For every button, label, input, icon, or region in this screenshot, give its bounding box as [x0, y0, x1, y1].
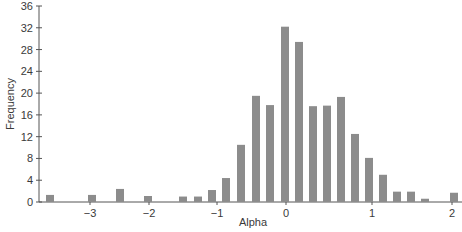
histogram-chart: 04812162024283236 −3−2−1012 Frequency Al… [0, 0, 462, 232]
y-tick-label: 24 [21, 65, 33, 77]
histogram-bar [323, 106, 331, 202]
x-tick-label: 1 [369, 207, 375, 219]
y-axis: 04812162024283236 [21, 0, 42, 208]
histogram-bar [365, 158, 373, 202]
histogram-bar [281, 27, 289, 202]
y-axis-title: Frequency [4, 78, 16, 130]
histogram-bar [407, 192, 415, 202]
histogram-bar [351, 134, 359, 202]
histogram-bar [116, 189, 124, 202]
histogram-bar [379, 175, 387, 202]
y-tick-label: 12 [21, 131, 33, 143]
y-tick-label: 36 [21, 0, 33, 12]
x-tick-label: 2 [449, 207, 455, 219]
histogram-bar [179, 197, 187, 202]
histogram-bar [88, 195, 96, 202]
histogram-bar [46, 195, 54, 202]
y-tick-label: 8 [27, 152, 33, 164]
histogram-bar [222, 178, 230, 202]
histogram-bar [450, 193, 458, 202]
y-tick-label: 32 [21, 22, 33, 34]
x-axis-title: Alpha [239, 216, 268, 228]
histogram-bar [208, 190, 216, 202]
histogram-bar [194, 197, 202, 202]
histogram-bar [144, 196, 152, 202]
x-tick-label: −3 [84, 207, 97, 219]
histogram-bar [266, 105, 274, 202]
x-tick-label: −1 [211, 207, 224, 219]
x-tick-label: 0 [283, 207, 289, 219]
histogram-bar [237, 145, 245, 202]
histogram-bar [309, 106, 317, 202]
bars [46, 27, 458, 202]
y-tick-label: 0 [27, 196, 33, 208]
histogram-bar [252, 96, 260, 202]
histogram-bar [421, 199, 429, 202]
histogram-bar [337, 97, 345, 202]
y-tick-label: 28 [21, 44, 33, 56]
y-tick-label: 20 [21, 87, 33, 99]
histogram-bar [295, 42, 303, 202]
x-tick-label: −2 [143, 207, 156, 219]
y-tick-label: 16 [21, 109, 33, 121]
histogram-bar [393, 192, 401, 202]
y-tick-label: 4 [27, 174, 33, 186]
